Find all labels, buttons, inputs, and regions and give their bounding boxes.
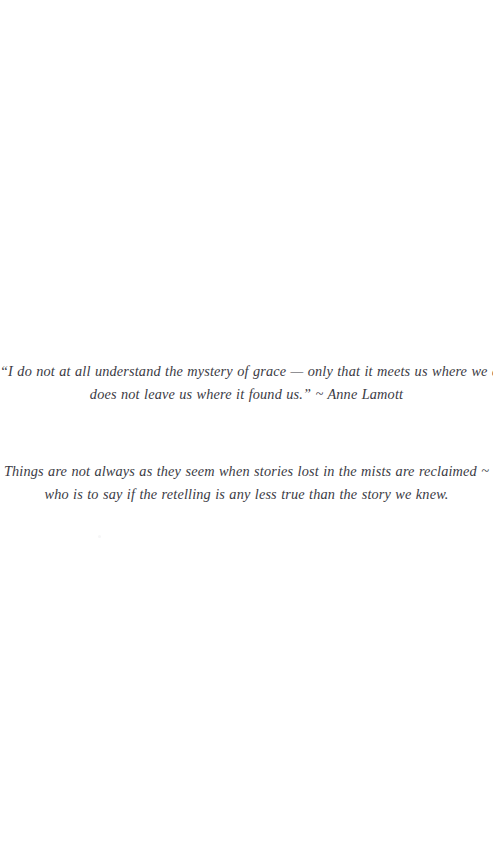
scan-artifact-speck — [98, 535, 101, 538]
reflection-passage-line-2: who is to say if the retelling is any le… — [0, 483, 493, 506]
reflection-passage-line-1: Things are not always as they seem when … — [0, 460, 493, 483]
epigraph-quote-line-2: does not leave us where it found us.” ~ … — [0, 383, 493, 406]
epigraph-quote-line-1: “I do not at all understand the mystery … — [0, 360, 493, 383]
page-canvas: “I do not at all understand the mystery … — [0, 0, 493, 866]
reflection-passage-block: Things are not always as they seem when … — [0, 460, 493, 506]
epigraph-quote-block: “I do not at all understand the mystery … — [0, 360, 493, 406]
